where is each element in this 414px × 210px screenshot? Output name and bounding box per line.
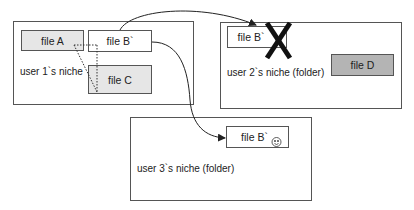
file-b-user2: file B`: [227, 26, 287, 48]
file-c-label: file C: [108, 74, 132, 86]
file-d: file D: [331, 54, 394, 76]
file-b-user2-label: file B`: [238, 31, 265, 43]
file-a: file A: [21, 30, 84, 51]
file-d-label: file D: [351, 59, 375, 71]
file-b-user3: file B`: [226, 126, 289, 148]
niche-user-2-label: user 2`s niche (folder): [227, 67, 324, 78]
file-b-user1-label: file B`: [107, 35, 134, 47]
niche-user-1-label: user 1`s niche: [20, 66, 83, 77]
file-a-label: file A: [41, 35, 64, 47]
file-c: file C: [88, 65, 152, 94]
niche-user-3-label: user 3`s niche (folder): [137, 163, 234, 174]
file-b-user1: file B`: [88, 30, 152, 52]
file-b-user3-label: file B`: [241, 131, 268, 143]
